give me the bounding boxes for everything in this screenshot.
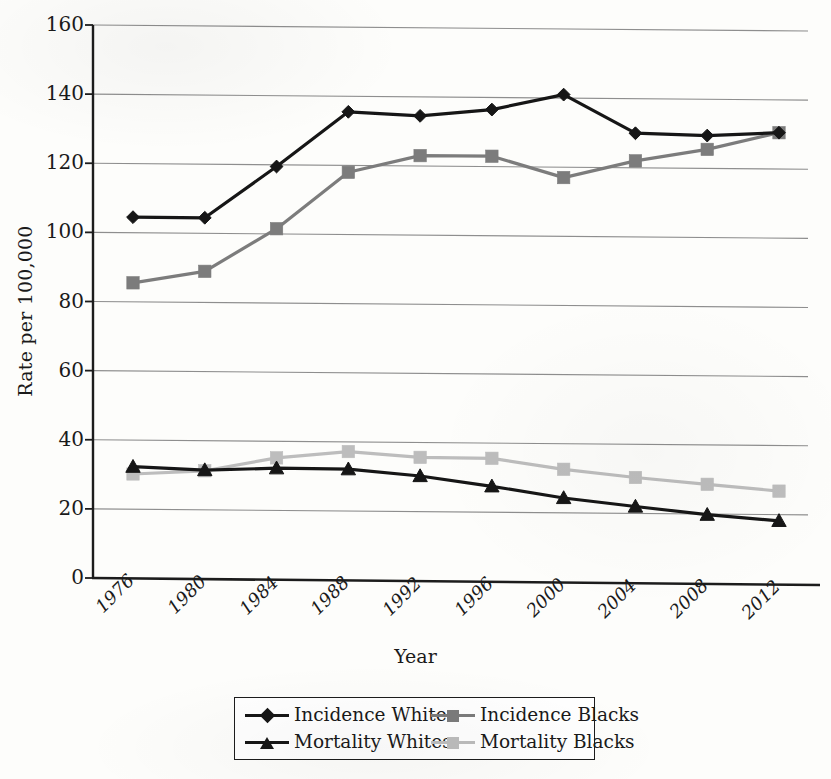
x-tick-label: 2012 bbox=[737, 575, 784, 622]
legend-marker-diamond-icon bbox=[259, 708, 275, 724]
legend-swatch-triangle-icon bbox=[245, 735, 289, 751]
legend-marker-square-icon bbox=[447, 710, 459, 722]
x-tick-label: 1992 bbox=[378, 572, 425, 619]
legend-item-mortality-blacks[interactable]: Mortality Blacks bbox=[431, 733, 596, 752]
legend-item-label: Mortality Whites bbox=[294, 733, 452, 752]
x-tick-label: 1976 bbox=[91, 570, 138, 617]
legend-item-mortality-whites[interactable]: Mortality Whites bbox=[235, 733, 431, 752]
x-axis-tick-labels: 1976198019841988199219962000200420082012 bbox=[0, 0, 831, 660]
x-tick-label: 1988 bbox=[306, 572, 353, 619]
x-tick-label: 1996 bbox=[450, 573, 497, 620]
x-tick-label: 1984 bbox=[235, 571, 282, 618]
x-axis-title: Year bbox=[0, 645, 831, 667]
x-tick-label: 1980 bbox=[163, 571, 210, 618]
chart-legend: Incidence WhitesIncidence BlacksMortalit… bbox=[234, 697, 595, 760]
legend-row: Mortality WhitesMortality Blacks bbox=[235, 729, 594, 756]
x-tick-label: 2000 bbox=[522, 574, 569, 621]
legend-item-label: Incidence Blacks bbox=[480, 706, 639, 725]
legend-item-label: Mortality Blacks bbox=[480, 733, 635, 752]
chart-plot-area: 160140120100806040200 197619801984198819… bbox=[0, 0, 831, 660]
scanned-page-background: 160140120100806040200 197619801984198819… bbox=[0, 0, 831, 779]
legend-item-incidence-whites[interactable]: Incidence Whites bbox=[235, 706, 431, 725]
legend-marker-square-icon bbox=[447, 737, 459, 749]
legend-item-incidence-blacks[interactable]: Incidence Blacks bbox=[431, 706, 596, 725]
x-tick-label: 2008 bbox=[665, 575, 712, 622]
x-tick-label: 2004 bbox=[593, 574, 640, 621]
legend-swatch-square-icon bbox=[431, 735, 475, 751]
legend-row: Incidence WhitesIncidence Blacks bbox=[235, 702, 594, 729]
legend-swatch-square-icon bbox=[431, 708, 475, 724]
y-axis-title: Rate per 100,000 bbox=[14, 196, 36, 426]
legend-marker-triangle-icon bbox=[260, 737, 274, 749]
legend-swatch-diamond-icon bbox=[245, 708, 289, 724]
